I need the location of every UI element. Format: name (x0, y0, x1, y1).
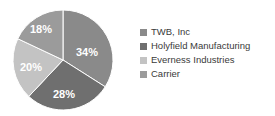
chart-legend: TWB, IncHolyfield ManufacturingEverness … (140, 25, 275, 81)
pie-slice-data-label: 18% (30, 23, 52, 35)
legend-item-label: Holyfield Manufacturing (151, 39, 250, 53)
legend-swatch-icon (140, 43, 147, 50)
pie-slice-data-label: 34% (76, 46, 98, 58)
pie-chart-svg: 34%28%20%18% (0, 0, 130, 116)
legend-swatch-icon (140, 71, 147, 78)
pie-slice-data-label: 20% (20, 61, 42, 73)
legend-item-label: Carrier (151, 67, 180, 81)
legend-swatch-icon (140, 57, 147, 64)
legend-swatch-icon (140, 29, 147, 36)
pie-chart-figure: 34%28%20%18% TWB, IncHolyfield Manufactu… (0, 0, 275, 116)
pie-chart-plot-area: 34%28%20%18% (0, 0, 130, 116)
legend-item[interactable]: TWB, Inc (140, 25, 275, 39)
legend-item[interactable]: Everness Industries (140, 53, 275, 67)
legend-item[interactable]: Carrier (140, 67, 275, 81)
legend-item-label: TWB, Inc (151, 25, 190, 39)
pie-slice-data-label: 28% (53, 88, 75, 100)
legend-item-label: Everness Industries (151, 53, 234, 67)
legend-item[interactable]: Holyfield Manufacturing (140, 39, 275, 53)
